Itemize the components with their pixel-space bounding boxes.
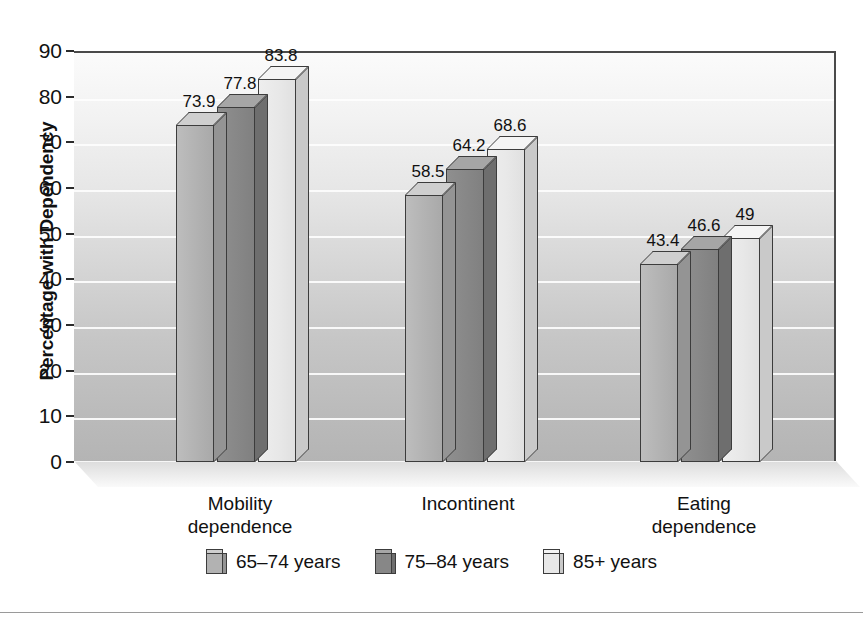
bar-value-label: 49 [713, 205, 777, 225]
y-axis-tick-group: 9080706050403020100 [16, 0, 62, 639]
legend-label: 85+ years [573, 551, 657, 573]
legend-item[interactable]: 85+ years [543, 549, 657, 574]
y-axis-tick-mark [66, 50, 74, 52]
y-axis-tick-label: 0 [18, 451, 62, 472]
x-axis-category-label: Mobilitydependence [130, 492, 350, 538]
legend-label: 75–84 years [405, 551, 510, 573]
bar [405, 195, 443, 462]
x-axis-category-label: Eatingdependence [594, 492, 814, 538]
legend-swatch-face [375, 553, 392, 574]
y-axis-tick-label: 80 [18, 86, 62, 107]
legend-swatch-face [543, 553, 560, 574]
bar [176, 125, 214, 462]
bar-value-label: 58.5 [396, 162, 460, 182]
y-axis-tick-label: 10 [18, 405, 62, 426]
y-axis-tick-mark [66, 278, 74, 280]
x-axis-category-line: Eating [594, 492, 814, 515]
bar-value-label: 68.6 [478, 116, 542, 136]
bar-side-face [678, 251, 691, 462]
bar-side-face [719, 236, 732, 462]
bar-value-label: 64.2 [437, 136, 501, 156]
y-axis-tick-mark [66, 96, 74, 98]
y-axis-tick-label: 30 [18, 314, 62, 335]
y-axis-tick-label: 70 [18, 131, 62, 152]
chart-floor-3d [74, 461, 860, 487]
chart-figure: Percentage with Dependency 9080706050403… [0, 0, 863, 639]
y-axis-tick-mark [66, 233, 74, 235]
y-axis-tick-mark [66, 141, 74, 143]
bar-side-face [443, 182, 456, 462]
legend: 65–74 years75–84 years85+ years [0, 549, 863, 574]
x-axis-category-label: Incontinent [358, 492, 578, 515]
footer-divider [0, 612, 863, 613]
x-axis-category-line: Incontinent [358, 492, 578, 515]
y-axis-tick-mark [66, 324, 74, 326]
bar-side-face [525, 136, 538, 462]
y-axis-tick-label: 50 [18, 223, 62, 244]
bar-front-face [640, 264, 678, 462]
bar-value-label: 73.9 [167, 92, 231, 112]
bar-value-label: 77.8 [208, 74, 272, 94]
bar-front-face [176, 125, 214, 462]
y-axis-tick-mark [66, 370, 74, 372]
bar [640, 264, 678, 462]
legend-swatch-icon [543, 549, 564, 574]
legend-item[interactable]: 65–74 years [206, 549, 341, 574]
bar-side-face [484, 156, 497, 462]
y-axis-tick-label: 20 [18, 360, 62, 381]
bar-value-label: 83.8 [249, 46, 313, 66]
legend-swatch-face [206, 553, 223, 574]
bar-front-face [405, 195, 443, 462]
x-axis-category-line: dependence [130, 515, 350, 538]
y-axis-tick-label: 90 [18, 40, 62, 61]
bar-side-face [296, 66, 309, 462]
plot-area: 73.977.883.858.564.268.643.446.649 [74, 51, 836, 462]
y-axis-tick-label: 40 [18, 268, 62, 289]
legend-item[interactable]: 75–84 years [375, 549, 510, 574]
y-axis-tick-mark [66, 415, 74, 417]
bar-side-face [760, 225, 773, 462]
legend-swatch-icon [375, 549, 396, 574]
y-axis-tick-mark [66, 461, 74, 463]
bar-side-face [214, 112, 227, 462]
x-axis-category-line: Mobility [130, 492, 350, 515]
legend-swatch-icon [206, 549, 227, 574]
y-axis-tick-label: 60 [18, 177, 62, 198]
x-axis-category-line: dependence [594, 515, 814, 538]
bar-side-face [255, 94, 268, 462]
y-axis-tick-mark [66, 187, 74, 189]
legend-label: 65–74 years [236, 551, 341, 573]
